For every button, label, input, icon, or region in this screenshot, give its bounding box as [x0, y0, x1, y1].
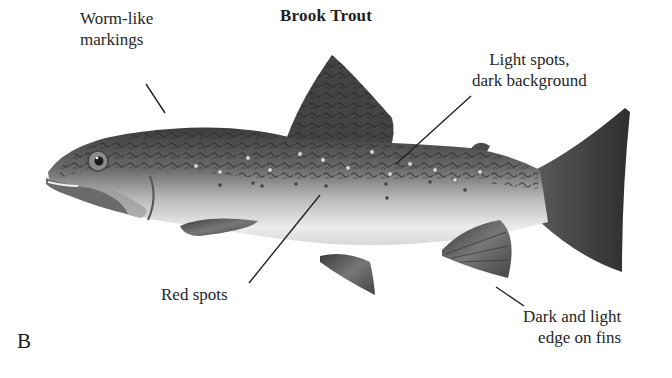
label-line: Worm-like: [80, 8, 153, 29]
label-line: Red spots: [161, 284, 228, 305]
label-line: Light spots,: [472, 49, 587, 70]
label-red-spots: Red spots: [161, 284, 228, 305]
label-worm-like-markings: Worm-like markings: [80, 8, 153, 50]
caudal-fin: [535, 108, 630, 272]
label-line: Dark and light: [523, 306, 621, 327]
leader-worm: [146, 84, 165, 113]
brook-trout-figure: Brook Trout Worm-like markings Light spo…: [0, 0, 672, 378]
label-line: edge on fins: [523, 327, 621, 348]
label-fin-edge: Dark and light edge on fins: [523, 306, 621, 348]
label-line: markings: [80, 29, 153, 50]
panel-letter: B: [17, 329, 31, 354]
pelvic-fin: [320, 254, 375, 295]
label-light-spots: Light spots, dark background: [472, 49, 587, 91]
label-line: dark background: [472, 70, 587, 91]
leader-edge: [496, 287, 524, 306]
figure-title: Brook Trout: [280, 6, 372, 26]
